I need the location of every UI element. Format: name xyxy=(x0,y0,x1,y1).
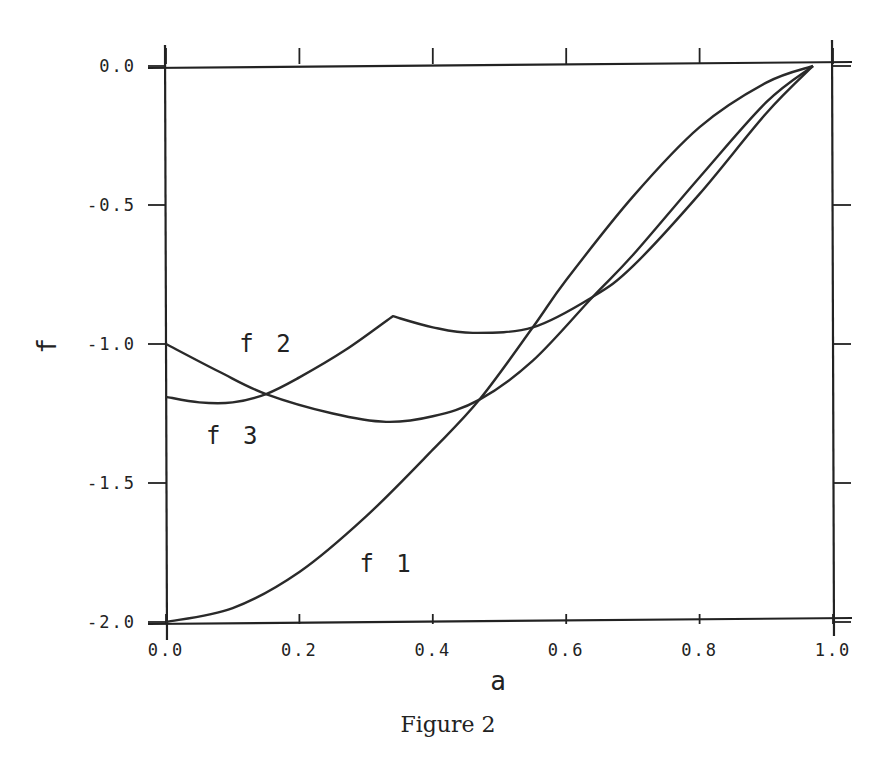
y-tick-label: -0.5 xyxy=(87,195,136,215)
x-tick-labels: 0.00.20.40.60.81.0 xyxy=(148,640,852,660)
series-label-f2: f 2 xyxy=(239,330,294,358)
series-labels: f 2f 3f 1 xyxy=(206,330,415,578)
series-label-f3: f 3 xyxy=(206,422,261,450)
y-tick-label: -1.0 xyxy=(87,334,136,354)
y-tick-label: 0.0 xyxy=(99,56,136,76)
x-tick-label: 0.0 xyxy=(148,640,185,660)
figure-caption: Figure 2 xyxy=(0,712,896,737)
series-label-f1: f 1 xyxy=(359,550,414,578)
y-tick-label: -2.0 xyxy=(87,612,136,632)
x-tick-label: 0.4 xyxy=(414,640,451,660)
series-line-f2 xyxy=(166,66,813,422)
y-tick-labels: 0.0-0.5-1.0-1.5-2.0 xyxy=(87,56,136,632)
x-tick-label: 0.8 xyxy=(681,640,718,660)
y-axis-title: f xyxy=(32,338,62,354)
x-tick-label: 1.0 xyxy=(815,640,852,660)
line-chart: 0.00.20.40.60.81.0 0.0-0.5-1.0-1.5-2.0 f… xyxy=(0,0,896,771)
x-tick-label: 0.2 xyxy=(281,640,318,660)
y-tick-label: -1.5 xyxy=(87,473,136,493)
x-axis-title: a xyxy=(490,666,506,696)
x-tick-label: 0.6 xyxy=(548,640,585,660)
